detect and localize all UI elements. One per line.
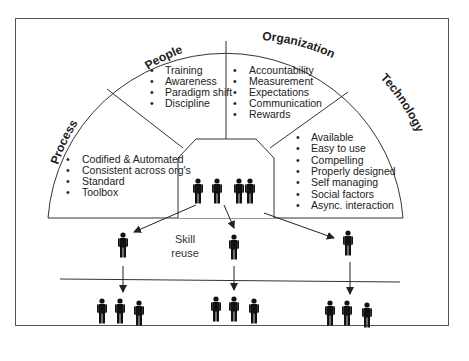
- svg-text:•: •: [296, 142, 300, 154]
- team-left: [97, 298, 144, 325]
- category-title-process: Process: [48, 117, 81, 166]
- person-icon: [343, 230, 353, 255]
- svg-text:Discipline: Discipline: [165, 97, 210, 109]
- svg-text:Self managing: Self managing: [311, 176, 378, 188]
- person-icon: [249, 298, 259, 323]
- svg-text:•: •: [66, 186, 70, 198]
- category-title-organization: Organization: [262, 29, 338, 61]
- person-icon: [134, 300, 144, 325]
- technology-list: •Available •Easy to use •Compelling •Pro…: [296, 131, 396, 211]
- person-icon: [211, 296, 221, 321]
- person-icon: [229, 234, 239, 259]
- svg-text:Rewards: Rewards: [249, 108, 290, 120]
- team-separator-line: [60, 279, 400, 282]
- person-icon: [342, 300, 352, 325]
- person-icon: [229, 296, 239, 321]
- team-center: [211, 296, 259, 323]
- skill-label-line1: Skill: [175, 233, 195, 245]
- svg-text:•: •: [296, 199, 300, 211]
- organization-list: •Accountability •Measurement •Expectatio…: [233, 64, 322, 120]
- person-icon: [325, 300, 335, 325]
- people-list: •Training •Awareness •Paradigm shift •Di…: [150, 64, 232, 109]
- person-icon: [115, 298, 125, 323]
- process-list: •Codified & Automated •Consistent across…: [66, 153, 191, 198]
- diagram-canvas: People Organization Process Technology •…: [0, 0, 469, 361]
- category-title-technology: Technology: [378, 70, 427, 134]
- person-icon: [97, 298, 107, 323]
- svg-text:•: •: [296, 176, 300, 188]
- skill-label-line2: reuse: [171, 247, 199, 259]
- svg-text:Easy to use: Easy to use: [311, 142, 366, 154]
- down-arrows: [123, 262, 350, 294]
- team-right: [325, 300, 372, 327]
- person-icon: [118, 232, 128, 257]
- svg-text:Toolbox: Toolbox: [82, 186, 119, 198]
- svg-text:•: •: [150, 97, 154, 109]
- diagram-svg: People Organization Process Technology •…: [0, 0, 469, 361]
- mid-people: [118, 230, 353, 259]
- svg-text:Async. interaction: Async. interaction: [311, 199, 394, 211]
- svg-text:•: •: [233, 108, 237, 120]
- person-icon: [362, 302, 372, 327]
- arrow-to-right: [264, 213, 334, 238]
